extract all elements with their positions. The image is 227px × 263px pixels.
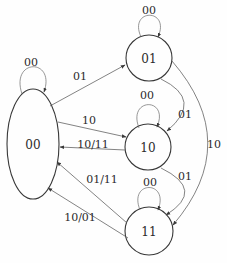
self-loop-label-10: 00: [140, 89, 154, 102]
edge-label-10-00: 10/11: [77, 138, 109, 151]
self-loop-label-11: 00: [143, 176, 157, 189]
edge-01-to-10: [161, 79, 184, 131]
edge-label-11-00-upper: 01/11: [86, 173, 118, 186]
edge-label-10-11: 01: [178, 170, 192, 183]
edge-label-00-10: 10: [82, 114, 96, 127]
self-loop-label-01: 00: [142, 4, 156, 17]
self-loop-label-00: 00: [24, 56, 38, 69]
edge-label-01-11-outer: 10: [207, 138, 221, 151]
self-loop-00: [20, 67, 46, 94]
self-loop-01: [139, 15, 161, 37]
edge-label-00-01: 01: [73, 70, 87, 83]
edge-label-11-00-lower: 10/01: [64, 211, 96, 224]
state-label-01: 01: [141, 52, 156, 66]
state-diagram: 00 01 10 11 00 00 00 00 01 10 10/11 01/1…: [0, 0, 227, 263]
edge-00-to-01: [50, 65, 125, 106]
state-label-00: 00: [25, 138, 40, 152]
state-diagram-svg: 00 01 10 11 00 00 00 00 01 10 10/11 01/1…: [0, 0, 227, 263]
edge-label-01-10: 01: [178, 108, 192, 121]
state-label-10: 10: [140, 141, 155, 155]
state-label-11: 11: [141, 225, 156, 239]
edge-01-to-11-outer: [172, 61, 208, 225]
